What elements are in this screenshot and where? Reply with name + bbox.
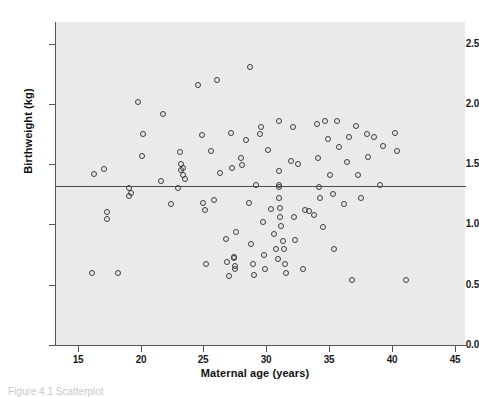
x-tick-label: 25 bbox=[183, 354, 223, 365]
data-point bbox=[295, 161, 301, 167]
data-point bbox=[331, 246, 337, 252]
data-point bbox=[228, 130, 234, 136]
data-point bbox=[160, 111, 166, 117]
data-point bbox=[208, 148, 214, 154]
data-point bbox=[139, 153, 145, 159]
data-point bbox=[273, 246, 279, 252]
x-axis-title: Maternal age (years) bbox=[155, 367, 355, 379]
y-tick bbox=[49, 345, 55, 346]
data-point bbox=[226, 273, 232, 279]
data-point bbox=[290, 124, 296, 130]
data-point bbox=[248, 241, 254, 247]
x-tick-label: 30 bbox=[246, 354, 286, 365]
data-point bbox=[101, 166, 107, 172]
data-point bbox=[135, 99, 141, 105]
data-point bbox=[177, 149, 183, 155]
y-tick-label: 1.0 bbox=[435, 218, 479, 229]
y-tick-label: 2.0 bbox=[435, 98, 479, 109]
data-point bbox=[334, 118, 340, 124]
x-tick-label: 40 bbox=[372, 354, 412, 365]
scatterplot-figure: 0.00.51.01.52.02.515202530354045 Birthwe… bbox=[0, 0, 479, 397]
data-point bbox=[358, 195, 364, 201]
data-point bbox=[128, 190, 134, 196]
x-tick bbox=[141, 346, 142, 352]
x-tick bbox=[78, 346, 79, 352]
data-point bbox=[182, 176, 188, 182]
data-point bbox=[271, 231, 277, 237]
data-point bbox=[233, 229, 239, 235]
x-tick-label: 45 bbox=[435, 354, 475, 365]
data-point bbox=[320, 224, 326, 230]
y-axis-line bbox=[55, 22, 56, 346]
data-point bbox=[353, 123, 359, 129]
data-point bbox=[115, 270, 121, 276]
data-point bbox=[344, 159, 350, 165]
data-point bbox=[364, 131, 370, 137]
y-tick bbox=[49, 224, 55, 225]
data-point bbox=[168, 201, 174, 207]
data-point bbox=[223, 236, 229, 242]
data-point bbox=[281, 246, 287, 252]
data-point bbox=[211, 197, 217, 203]
x-tick bbox=[455, 346, 456, 352]
y-tick bbox=[49, 164, 55, 165]
data-point bbox=[276, 184, 282, 190]
data-point bbox=[346, 134, 352, 140]
data-point bbox=[311, 212, 317, 218]
data-point bbox=[217, 170, 223, 176]
reference-line bbox=[55, 186, 466, 187]
x-tick-label: 15 bbox=[58, 354, 98, 365]
data-point bbox=[265, 147, 271, 153]
x-tick-label: 35 bbox=[309, 354, 349, 365]
data-point bbox=[261, 252, 267, 258]
data-point bbox=[246, 200, 252, 206]
data-point bbox=[276, 195, 282, 201]
data-point bbox=[232, 263, 238, 269]
data-point bbox=[277, 205, 283, 211]
data-point bbox=[276, 118, 282, 124]
data-point bbox=[392, 130, 398, 136]
y-tick bbox=[49, 104, 55, 105]
data-point bbox=[251, 272, 257, 278]
data-point bbox=[250, 261, 256, 267]
x-tick bbox=[392, 346, 393, 352]
x-tick bbox=[266, 346, 267, 352]
data-point bbox=[325, 136, 331, 142]
y-tick-label: 1.5 bbox=[435, 158, 479, 169]
data-point bbox=[104, 216, 110, 222]
data-point bbox=[89, 270, 95, 276]
x-axis-line bbox=[55, 345, 466, 346]
x-tick bbox=[203, 346, 204, 352]
data-point bbox=[403, 277, 409, 283]
y-tick-label: 2.5 bbox=[435, 38, 479, 49]
data-point bbox=[91, 171, 97, 177]
x-tick bbox=[329, 346, 330, 352]
x-tick-label: 20 bbox=[121, 354, 161, 365]
y-tick bbox=[49, 285, 55, 286]
y-tick bbox=[49, 44, 55, 45]
data-point bbox=[300, 266, 306, 272]
data-point bbox=[349, 277, 355, 283]
data-point bbox=[247, 64, 253, 70]
data-point bbox=[158, 178, 164, 184]
data-point bbox=[231, 255, 237, 261]
figure-caption: Figure 4.1 Scatterplot bbox=[8, 386, 308, 397]
y-tick-label: 0.5 bbox=[435, 279, 479, 290]
plot-panel bbox=[55, 22, 465, 345]
data-point bbox=[371, 134, 377, 140]
y-axis-title: Birthweight (kg) bbox=[22, 41, 34, 221]
y-tick-label: 0.0 bbox=[435, 339, 479, 350]
data-point bbox=[202, 207, 208, 213]
data-point bbox=[260, 219, 266, 225]
